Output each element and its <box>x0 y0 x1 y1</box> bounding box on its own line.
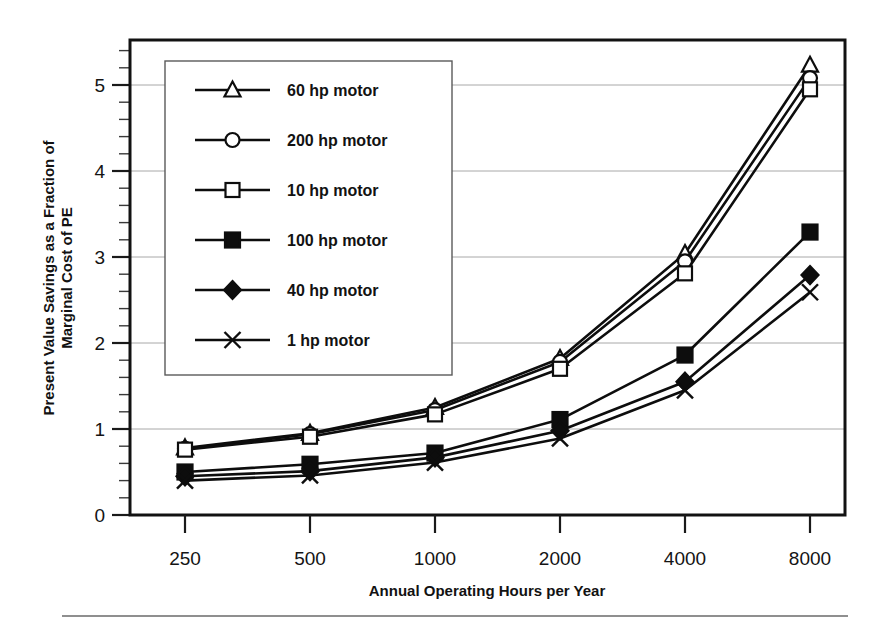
legend-box <box>165 61 452 375</box>
legend-label: 10 hp motor <box>287 182 379 199</box>
data-point <box>553 362 567 376</box>
chart-legend: 60 hp motor200 hp motor10 hp motor100 hp… <box>165 61 452 375</box>
legend-label: 100 hp motor <box>287 232 387 249</box>
y-tick-label-5: 5 <box>94 75 105 96</box>
y-tick-label-1: 1 <box>94 419 105 440</box>
y-tick-label-3: 3 <box>94 247 105 268</box>
x-tick-label-4000: 4000 <box>664 548 706 569</box>
legend-label: 60 hp motor <box>287 82 379 99</box>
legend-filled-square-icon <box>225 233 240 248</box>
x-tick-label-8000: 8000 <box>789 548 831 569</box>
x-tick-label-500: 500 <box>294 548 326 569</box>
data-point <box>678 266 692 280</box>
legend-open-square-icon <box>226 183 240 197</box>
legend-label: 40 hp motor <box>287 282 379 299</box>
x-tick-label-2000: 2000 <box>539 548 581 569</box>
data-point <box>303 430 317 444</box>
x-tick-label-250: 250 <box>169 548 201 569</box>
y-tick-label-4: 4 <box>94 161 105 182</box>
y-tick-label-2: 2 <box>94 333 105 354</box>
legend-label: 200 hp motor <box>287 132 387 149</box>
line-chart: 012345 2505001000200040008000 60 hp moto… <box>0 0 875 626</box>
figure-container: 012345 2505001000200040008000 60 hp moto… <box>0 0 875 626</box>
data-point <box>428 407 442 421</box>
data-point <box>803 225 818 240</box>
legend-open-circle-icon <box>226 133 240 147</box>
data-point <box>678 348 693 363</box>
y-axis-title-line-2: Marginal Cost of PE <box>58 207 75 349</box>
data-point <box>803 82 817 96</box>
x-axis-title: Annual Operating Hours per Year <box>369 582 606 599</box>
x-tick-label-1000: 1000 <box>414 548 456 569</box>
y-axis-title-line-1: Present Value Savings as a Fraction of <box>40 139 57 415</box>
legend-label: 1 hp motor <box>287 332 370 349</box>
y-tick-label-0: 0 <box>94 505 105 526</box>
data-point <box>178 443 192 457</box>
